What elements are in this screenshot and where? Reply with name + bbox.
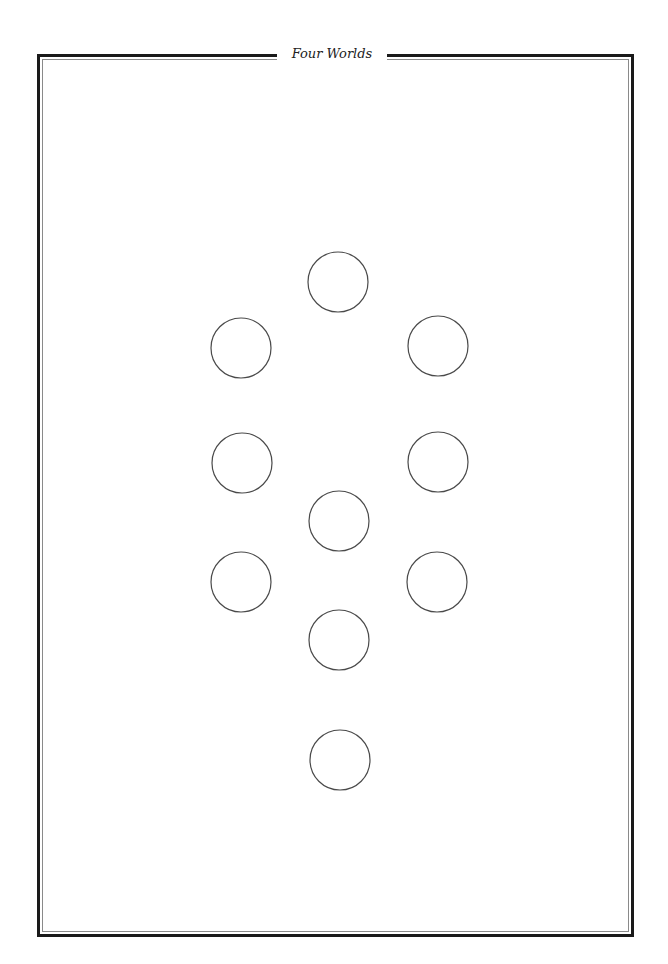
diagram-node-upper-left	[211, 318, 271, 378]
diagram-node-center	[309, 491, 369, 551]
diagram-node-middle-right	[408, 432, 468, 492]
diagram-node-bottom-center	[310, 730, 370, 790]
diagram-node-lower-left	[211, 552, 271, 612]
diagram-node-upper-right	[408, 316, 468, 376]
diagram-node-lower-right	[407, 552, 467, 612]
diagram-node-middle-left	[212, 433, 272, 493]
diagram-node-top-center	[308, 252, 368, 312]
diagram-node-lower-center	[309, 610, 369, 670]
circle-diagram	[0, 0, 668, 964]
